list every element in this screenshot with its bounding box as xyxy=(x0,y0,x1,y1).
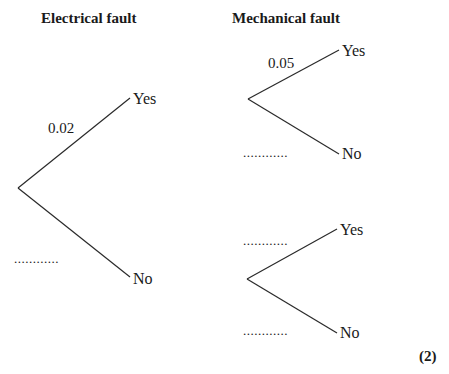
label-electrical-yes: Yes xyxy=(133,90,156,108)
blank-lower-mechanical-yes[interactable]: ............ xyxy=(243,236,288,246)
marks-indicator: (2) xyxy=(419,348,437,365)
label-upper-mechanical-yes: Yes xyxy=(342,42,365,60)
branch-electrical-yes xyxy=(18,98,130,188)
prob-upper-mechanical-yes: 0.05 xyxy=(268,55,294,72)
label-electrical-no: No xyxy=(133,270,153,288)
label-lower-mechanical-yes: Yes xyxy=(340,221,363,239)
blank-electrical-no[interactable]: ............ xyxy=(14,254,59,264)
blank-upper-mechanical-no[interactable]: ............ xyxy=(243,148,288,158)
label-upper-mechanical-no: No xyxy=(342,145,362,163)
prob-electrical-yes: 0.02 xyxy=(48,120,74,137)
tree-diagram-lines xyxy=(0,0,449,374)
blank-lower-mechanical-no[interactable]: ............ xyxy=(243,326,288,336)
label-lower-mechanical-no: No xyxy=(340,324,360,342)
